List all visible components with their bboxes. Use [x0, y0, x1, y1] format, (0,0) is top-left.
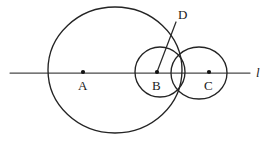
point-label-d: D — [178, 8, 187, 21]
point-a-dot — [81, 70, 85, 74]
point-c-dot — [207, 70, 211, 74]
point-label-c: C — [204, 79, 213, 92]
geometry-figure: A B C D l — [0, 0, 272, 143]
figure-canvas — [0, 0, 272, 143]
line-label-l: l — [256, 66, 260, 79]
circle-a — [48, 7, 182, 133]
point-label-b: B — [152, 79, 161, 92]
point-b-dot — [155, 70, 159, 74]
point-label-a: A — [78, 79, 87, 92]
